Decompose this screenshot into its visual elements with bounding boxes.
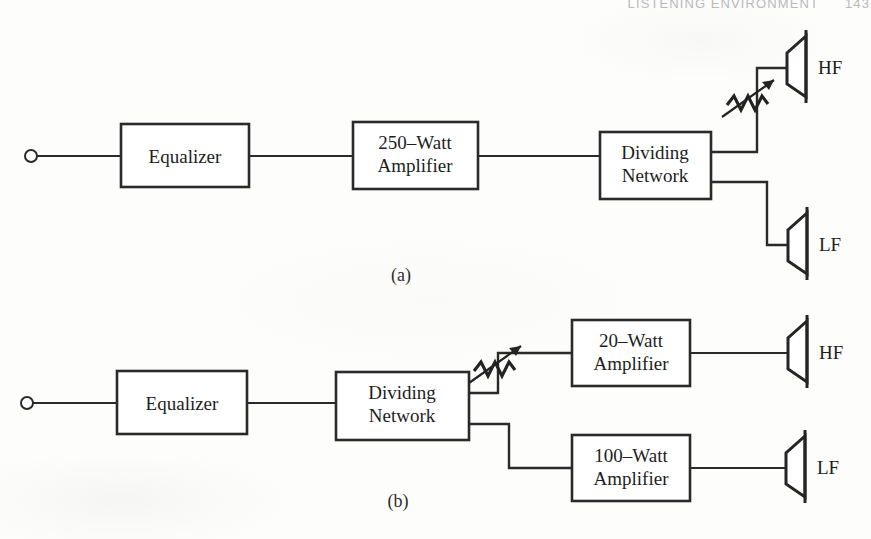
block-dividing-network-b-line2: Network [369,405,436,426]
scanned-book-page: LISTENING ENVIRONMENT143 Equalizer 250–W… [0,0,871,539]
input-terminal-b[interactable] [21,397,33,409]
block-lf-amplifier-b-line1: 100–Watt [594,445,668,466]
variable-attenuator-a[interactable] [722,80,774,117]
block-dividing-network-a-line2: Network [622,165,689,186]
diagram-a: Equalizer 250–Watt Amplifier Dividing Ne… [25,30,842,286]
diagram-b: Equalizer Dividing Network 20–Watt Ampli… [21,315,843,512]
lf-speaker-b[interactable]: LF [786,430,839,503]
caption-b: (b) [388,491,409,512]
lf-speaker-a-label: LF [819,234,841,255]
block-power-amplifier-a-line1: 250–Watt [378,132,452,153]
caption-a: (a) [391,265,411,286]
wire-lf-branch-b [469,424,572,468]
block-power-amplifier-a-line2: Amplifier [378,155,454,176]
block-dividing-network-b-line1: Dividing [368,382,436,403]
block-lf-amplifier-b-line2: Amplifier [594,468,670,489]
block-dividing-network-a-line1: Dividing [621,142,689,163]
block-hf-amplifier-b-line1: 20–Watt [599,330,664,351]
hf-speaker-a-label: HF [818,57,842,78]
hf-speaker-b-label: HF [819,342,843,363]
block-equalizer-a-label: Equalizer [149,146,222,167]
lf-speaker-a[interactable]: LF [788,207,841,280]
hf-speaker-a[interactable]: HF [787,30,842,103]
lf-speaker-b-label: LF [817,457,839,478]
variable-attenuator-b[interactable] [469,346,521,383]
block-hf-amplifier-b-line2: Amplifier [594,353,670,374]
block-equalizer-b-label: Equalizer [146,393,219,414]
hf-speaker-b[interactable]: HF [788,315,843,388]
wire-lf-branch-a [711,182,788,245]
wire-hf-branch-a [711,68,787,152]
figure-block-diagrams: Equalizer 250–Watt Amplifier Dividing Ne… [0,0,871,539]
input-terminal-a[interactable] [25,150,37,162]
